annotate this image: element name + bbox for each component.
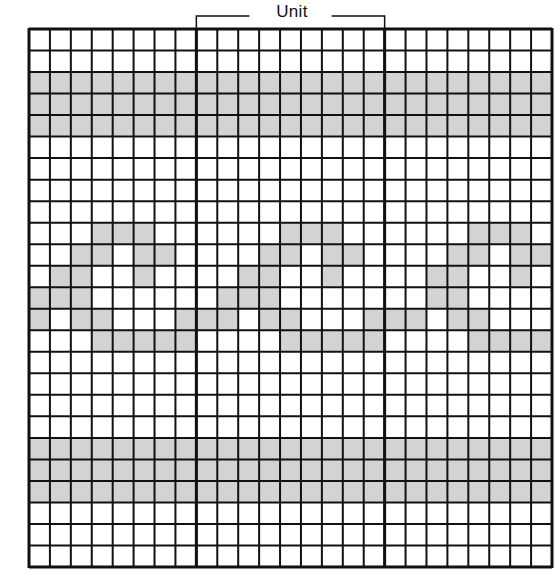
shaded-cell [426, 72, 447, 94]
shaded-cell [113, 72, 134, 94]
shaded-cell [50, 438, 71, 460]
shaded-cell [447, 94, 468, 116]
shaded-cell [510, 459, 531, 481]
shaded-cell [175, 481, 196, 503]
shaded-cell [385, 72, 406, 94]
shaded-cell [259, 266, 280, 288]
shaded-cell [175, 459, 196, 481]
shaded-cell [155, 438, 176, 460]
shaded-cell [364, 72, 385, 94]
shaded-cell [29, 94, 50, 116]
shaded-cell [426, 438, 447, 460]
shaded-cell [196, 459, 217, 481]
shaded-cell [510, 244, 531, 266]
shaded-cell [426, 266, 447, 288]
shaded-cell [343, 438, 364, 460]
shaded-cell [406, 438, 427, 460]
shaded-cell [92, 223, 113, 245]
shaded-cell [301, 72, 322, 94]
shaded-cell [29, 438, 50, 460]
shaded-cell [531, 244, 552, 266]
shaded-cell [134, 266, 155, 288]
shaded-cell [280, 94, 301, 116]
shaded-cell [301, 94, 322, 116]
shaded-cell [322, 115, 343, 137]
shaded-cell [238, 94, 259, 116]
shaded-cell [343, 481, 364, 503]
shaded-cell [510, 481, 531, 503]
shaded-cell [92, 481, 113, 503]
shaded-cell [92, 244, 113, 266]
shaded-cell [196, 72, 217, 94]
shaded-cell [259, 244, 280, 266]
shaded-cell [301, 459, 322, 481]
shaded-cell [364, 438, 385, 460]
shaded-cell [175, 115, 196, 137]
shaded-cell [259, 481, 280, 503]
shaded-cell [322, 72, 343, 94]
shaded-cell [280, 481, 301, 503]
shaded-cell [259, 459, 280, 481]
shaded-cell [406, 72, 427, 94]
shaded-cell [447, 244, 468, 266]
shaded-cell [50, 459, 71, 481]
shaded-cell [385, 94, 406, 116]
shaded-cell [447, 266, 468, 288]
shaded-cell [468, 438, 489, 460]
shaded-cell [447, 287, 468, 309]
shaded-cell [385, 438, 406, 460]
shaded-cell [322, 223, 343, 245]
shaded-cell [29, 72, 50, 94]
shaded-cell [155, 481, 176, 503]
shaded-cell [343, 244, 364, 266]
shaded-cell [406, 459, 427, 481]
shaded-cell [155, 244, 176, 266]
shaded-cell [280, 223, 301, 245]
shaded-cell [489, 223, 510, 245]
shaded-cell [385, 309, 406, 331]
shaded-cell [406, 115, 427, 137]
shaded-cell [301, 223, 322, 245]
shaded-cell [92, 94, 113, 116]
shaded-cell [50, 287, 71, 309]
shaded-cell [50, 481, 71, 503]
shaded-cell [385, 481, 406, 503]
shaded-cell [510, 223, 531, 245]
shaded-cell [71, 309, 92, 331]
shaded-cell [406, 309, 427, 331]
shaded-cell [217, 481, 238, 503]
shaded-cell [468, 481, 489, 503]
shaded-cell [510, 330, 531, 352]
shaded-cell [280, 72, 301, 94]
shaded-cell [301, 481, 322, 503]
shaded-cell [175, 94, 196, 116]
shaded-cell [217, 115, 238, 137]
shaded-cell [175, 438, 196, 460]
shaded-cell [134, 459, 155, 481]
shaded-cell [71, 94, 92, 116]
shaded-cell [155, 115, 176, 137]
shaded-cell [531, 481, 552, 503]
shaded-cell [280, 438, 301, 460]
shaded-cell [259, 72, 280, 94]
shaded-cell [113, 223, 134, 245]
shaded-cell [426, 481, 447, 503]
shaded-cell [322, 330, 343, 352]
shaded-cell [531, 330, 552, 352]
shaded-cell [29, 115, 50, 137]
shaded-cell [92, 330, 113, 352]
shaded-cell [531, 438, 552, 460]
shaded-cell [113, 459, 134, 481]
shaded-cell [322, 459, 343, 481]
shaded-cell [259, 94, 280, 116]
shaded-cell [510, 266, 531, 288]
shaded-cell [71, 72, 92, 94]
shaded-cell [343, 330, 364, 352]
shaded-cell [113, 330, 134, 352]
shaded-cell [468, 330, 489, 352]
shaded-cell [364, 309, 385, 331]
shaded-cell [134, 223, 155, 245]
shaded-cell [364, 330, 385, 352]
shaded-cell [447, 72, 468, 94]
shaded-cell [468, 244, 489, 266]
